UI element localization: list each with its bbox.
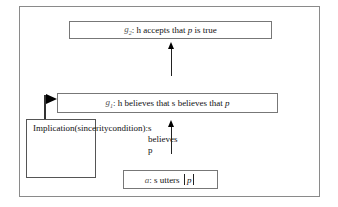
implication-line-4: s believes p: [148, 123, 177, 156]
action-text: : s utters: [149, 175, 182, 185]
implication-line-2: (sincerity: [75, 123, 109, 134]
implication-line-1: Implication: [33, 123, 75, 134]
goal-2-text-after: is true: [192, 25, 217, 35]
implication-box: Implication (sincerity condition): s bel…: [26, 119, 96, 178]
goal-1-box: g1 : h believes that s believes that p: [57, 93, 278, 113]
action-box: a : s utters p: [123, 170, 218, 189]
bracket-right: [193, 174, 194, 185]
goal-1-text: : h believes that s believes that: [113, 98, 225, 108]
goal-1-var: p: [225, 98, 230, 108]
action-var: p: [187, 175, 192, 185]
arrow-up-icon: [171, 48, 172, 76]
goal-2-text: : h accepts that: [132, 25, 188, 35]
bracket-left: [184, 174, 185, 185]
goal-2-box: g2 : h accepts that p is true: [69, 21, 272, 39]
goal-2-label: g2: [124, 24, 132, 36]
flag-icon: [46, 94, 57, 104]
arrow-up-icon: [171, 126, 172, 154]
implication-line-3: condition):: [109, 123, 149, 134]
goal-1-label: g1: [105, 97, 113, 109]
